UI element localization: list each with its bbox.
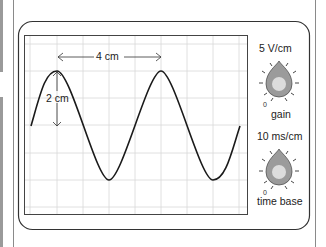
gain-knob[interactable] [259,61,299,101]
time-base-setting-label: 10 ms/cm [257,130,303,142]
gain-label: gain [271,108,291,120]
gain-setting-label: 5 V/cm [259,42,292,54]
amplitude-label: 2 cm [46,92,69,104]
gain-zero-mark: 0 [263,101,267,108]
wavelength-label: 4 cm [96,50,119,62]
time-base-knob[interactable] [259,149,299,189]
time-base-label: time base [257,195,303,207]
oscilloscope-diagram [0,0,326,247]
